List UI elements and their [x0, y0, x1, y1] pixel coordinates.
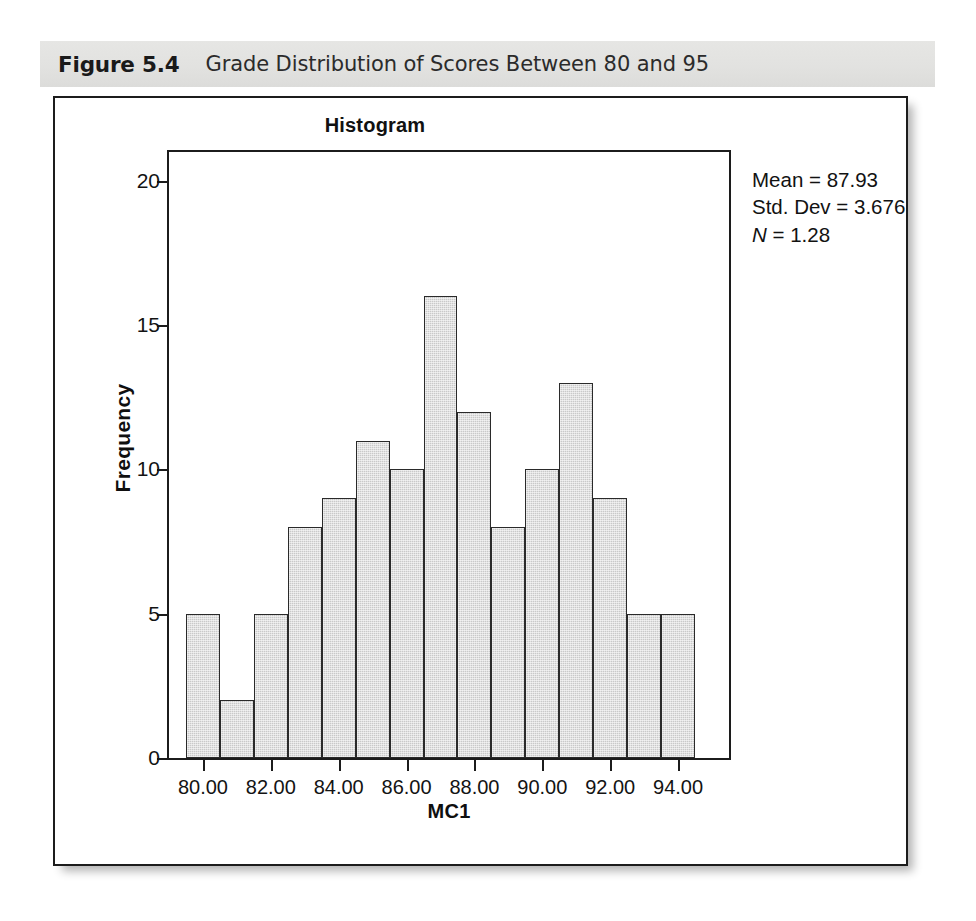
y-axis-tick-label: 0	[148, 746, 160, 770]
histogram-bar	[186, 614, 220, 758]
plot-area: 0510152080.0082.0084.0086.0088.0090.0092…	[167, 150, 731, 760]
x-axis-tick-label: 84.00	[314, 776, 364, 799]
stat-std-dev: Std. Dev = 3.676	[752, 193, 905, 220]
x-axis-tick-label: 92.00	[585, 776, 635, 799]
y-axis-tick-label: 10	[137, 457, 160, 481]
x-axis-tick	[542, 758, 544, 771]
histogram-bar	[390, 469, 424, 758]
histogram-bar	[525, 469, 559, 758]
y-axis-tick-label: 20	[137, 169, 160, 193]
x-axis-tick-label: 94.00	[653, 776, 703, 799]
x-axis-tick-label: 82.00	[246, 776, 296, 799]
histogram-bar	[322, 498, 356, 758]
histogram-bar	[254, 614, 288, 758]
x-axis-tick	[407, 758, 409, 771]
figure-caption-band: Figure 5.4 Grade Distribution of Scores …	[40, 41, 935, 87]
histogram-bar	[593, 498, 627, 758]
y-axis-tick-label: 15	[137, 313, 160, 337]
x-axis-tick-label: 86.00	[382, 776, 432, 799]
x-axis-tick	[339, 758, 341, 771]
histogram-bar	[220, 700, 254, 758]
x-axis-tick-label: 88.00	[449, 776, 499, 799]
histogram-bar	[627, 614, 661, 758]
x-axis-tick	[474, 758, 476, 771]
histogram-bar	[356, 441, 390, 758]
histogram-bar	[288, 527, 322, 758]
x-axis-tick	[678, 758, 680, 771]
y-axis-tick-label: 5	[148, 602, 160, 626]
x-axis-tick	[271, 758, 273, 771]
x-axis-tick	[203, 758, 205, 771]
histogram-bar	[491, 527, 525, 758]
x-axis-tick	[610, 758, 612, 771]
stat-n-symbol: N	[752, 223, 767, 246]
stat-mean: Mean = 87.93	[752, 166, 905, 193]
histogram-bar	[457, 412, 491, 758]
chart-title: Histogram	[55, 114, 695, 137]
figure-frame: Histogram Frequency 0510152080.0082.0084…	[53, 96, 908, 866]
histogram-bar	[661, 614, 695, 758]
figure-number: Figure 5.4	[58, 52, 180, 77]
x-axis-tick-label: 90.00	[517, 776, 567, 799]
figure-caption-title: Grade Distribution of Scores Between 80 …	[206, 52, 710, 76]
x-axis-label: MC1	[167, 800, 731, 823]
histogram-bar	[424, 296, 458, 758]
stat-n-value: = 1.28	[767, 223, 830, 246]
stat-n: N = 1.28	[752, 221, 905, 248]
histogram-bars	[169, 152, 729, 758]
x-axis-tick-label: 80.00	[178, 776, 228, 799]
statistics-annotation: Mean = 87.93 Std. Dev = 3.676 N = 1.28	[752, 166, 905, 248]
histogram-bar	[559, 383, 593, 758]
y-axis-label: Frequency	[111, 384, 135, 493]
